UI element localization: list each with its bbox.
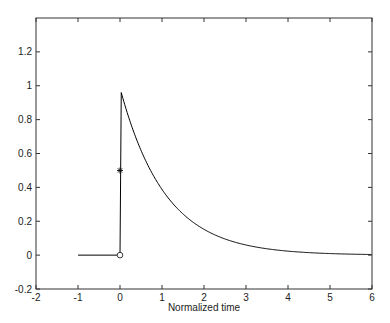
- y-tick-label: 0: [26, 250, 32, 261]
- axes-frame: [36, 18, 372, 289]
- x-tick-label: 0: [117, 292, 123, 303]
- x-axis-ticks: -2-10123456: [32, 18, 376, 303]
- y-tick-label: -0.2: [15, 284, 33, 295]
- y-tick-label: 1.2: [18, 46, 32, 57]
- y-tick-label: 0.2: [18, 216, 32, 227]
- plot-area: [78, 93, 372, 258]
- x-tick-label: 6: [369, 292, 375, 303]
- y-tick-label: 0.8: [18, 114, 32, 125]
- x-tick-label: 3: [243, 292, 249, 303]
- y-tick-label: 0.6: [18, 148, 32, 159]
- chart: -2-10123456 -0.200.20.40.60.811.2 Normal…: [0, 0, 390, 323]
- x-tick-label: -2: [32, 292, 41, 303]
- x-tick-label: -1: [74, 292, 83, 303]
- x-axis-label: Normalized time: [168, 302, 241, 313]
- y-tick-label: 0.4: [18, 182, 32, 193]
- y-axis-ticks: -0.200.20.40.60.811.2: [15, 46, 372, 294]
- x-tick-label: 5: [327, 292, 333, 303]
- x-tick-label: 1: [159, 292, 165, 303]
- series-line: [78, 93, 372, 256]
- asterisk-marker: [117, 167, 123, 173]
- x-tick-label: 4: [285, 292, 291, 303]
- circle-marker: [117, 252, 123, 258]
- y-tick-label: 1: [26, 80, 32, 91]
